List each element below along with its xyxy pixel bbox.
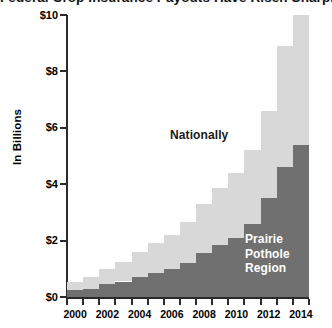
bar-2000 — [67, 282, 83, 298]
series-label-nationally: Nationally — [170, 128, 228, 142]
x-axis-tick — [179, 299, 181, 305]
y-axis-label: $6 — [18, 122, 58, 133]
bar-segment-nationally — [228, 173, 244, 238]
x-axis-tick — [114, 299, 116, 305]
y-axis-label: $2 — [18, 235, 58, 246]
bar-2010 — [228, 173, 244, 297]
x-axis-tick — [66, 299, 68, 305]
x-axis-tick — [211, 299, 213, 305]
bar-segment-nationally — [132, 252, 148, 277]
bar-segment-nationally — [244, 150, 260, 223]
bar-segment-nationally — [293, 15, 309, 145]
bar-segment-prairie-pothole-region — [164, 269, 180, 297]
x-axis-tick — [195, 299, 197, 305]
bar-segment-nationally — [261, 111, 277, 198]
y-axis-tick — [60, 296, 67, 298]
bar-2006 — [164, 235, 180, 297]
series-label-prairie-pothole-region: Prairie Pothole Region — [245, 232, 290, 276]
bar-segment-prairie-pothole-region — [115, 282, 131, 298]
x-axis-tick — [292, 299, 294, 305]
bar-2009 — [212, 188, 228, 297]
bar-2007 — [180, 222, 196, 297]
bar-2003 — [115, 262, 131, 297]
bar-2002 — [99, 269, 115, 297]
bar-segment-nationally — [196, 204, 212, 253]
series-label-ppr-line-2: Pothole — [245, 247, 290, 262]
chart-figure: Federal Crop Insurance Payouts Have Rise… — [0, 0, 332, 328]
bar-segment-nationally — [148, 243, 164, 273]
bar-segment-nationally — [67, 282, 83, 290]
y-axis-label: $10 — [18, 10, 58, 21]
bar-segment-nationally — [164, 235, 180, 269]
y-axis-tick — [60, 70, 67, 72]
bar-2004 — [132, 252, 148, 297]
x-axis-tick — [98, 299, 100, 305]
y-axis-tick — [60, 183, 67, 185]
bar-segment-prairie-pothole-region — [99, 284, 115, 297]
bar-segment-nationally — [277, 46, 293, 167]
bar-2008 — [196, 204, 212, 297]
bar-segment-nationally — [180, 222, 196, 263]
series-label-ppr-line-3: Region — [245, 261, 290, 276]
bar-segment-nationally — [115, 262, 131, 282]
bar-segment-prairie-pothole-region — [212, 245, 228, 297]
bar-2001 — [83, 277, 99, 297]
y-axis-labels: $10$8$6$4$2$0 — [12, 0, 58, 328]
bar-segment-prairie-pothole-region — [83, 289, 99, 297]
bar-segment-prairie-pothole-region — [148, 273, 164, 297]
bar-segment-prairie-pothole-region — [228, 238, 244, 297]
x-axis-tick — [147, 299, 149, 305]
series-label-ppr-line-1: Prairie — [245, 232, 290, 247]
x-axis-tick — [163, 299, 165, 305]
y-axis-tick — [60, 240, 67, 242]
x-axis-line — [66, 297, 309, 299]
x-axis-tick — [308, 299, 310, 305]
y-axis-label: $8 — [18, 66, 58, 77]
x-axis-tick — [227, 299, 229, 305]
bar-segment-prairie-pothole-region — [67, 290, 83, 297]
bar-segment-prairie-pothole-region — [132, 277, 148, 297]
bar-segment-prairie-pothole-region — [293, 145, 309, 297]
bar-segment-nationally — [99, 269, 115, 285]
bar-segment-nationally — [83, 277, 99, 288]
bar-segment-prairie-pothole-region — [180, 263, 196, 297]
x-axis-label: 2014 — [281, 308, 321, 320]
bar-segment-prairie-pothole-region — [196, 253, 212, 297]
x-axis-tick — [243, 299, 245, 305]
y-axis-tick — [60, 127, 67, 129]
x-axis-tick — [131, 299, 133, 305]
bar-segment-nationally — [212, 188, 228, 244]
y-axis-label: $4 — [18, 179, 58, 190]
x-axis-tick — [82, 299, 84, 305]
x-axis-tick — [276, 299, 278, 305]
x-axis-tick — [260, 299, 262, 305]
bar-2014 — [293, 15, 309, 297]
y-axis-label: $0 — [18, 292, 58, 303]
y-axis-tick — [60, 14, 67, 16]
bar-2005 — [148, 243, 164, 297]
